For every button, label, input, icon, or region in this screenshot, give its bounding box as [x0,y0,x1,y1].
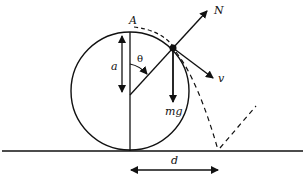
normal-force-arrow [173,11,207,48]
diagram: A N a θ v mg d [0,0,305,177]
diagram-svg: A N a θ v mg d [0,0,305,177]
label-a: a [111,60,118,73]
particle [170,45,177,52]
label-A: A [128,14,137,27]
trajectory-bounce-dashed [220,106,256,148]
label-theta: θ [137,53,143,64]
label-v: v [218,72,225,85]
label-N: N [213,4,224,17]
velocity-arrow [173,48,213,78]
label-mg: mg [165,105,182,118]
label-d: d [171,154,178,167]
theta-arc [130,64,147,74]
